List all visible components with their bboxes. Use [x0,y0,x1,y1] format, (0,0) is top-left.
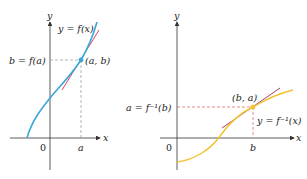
left-y-value-label: b = f(a) [9,55,46,66]
right-graph: x y 0 y = f⁻¹(x) a = f⁻¹(b) (b, a) b [126,10,302,170]
left-x-tick-label: a [78,142,84,153]
diagram-canvas: x y 0 y = f(x) b = f(a) (a, b) a x y 0 y… [0,0,307,179]
left-point-ab [79,58,84,63]
right-y-axis-label: y [173,10,180,21]
right-y-value-label: a = f⁻¹(b) [126,102,172,113]
left-graph: x y 0 y = f(x) b = f(a) (a, b) a [9,10,110,170]
right-point-label: (b, a) [232,92,257,103]
left-x-axis-label: x [103,132,109,143]
left-curve-label: y = f(x) [57,23,94,34]
right-x-tick-label: b [250,142,256,153]
right-curve-label: y = f⁻¹(x) [256,115,302,126]
left-y-axis-label: y [46,10,53,21]
left-curve-f [27,22,97,138]
left-origin-label: 0 [40,142,46,153]
right-x-axis-label: x [296,132,302,143]
right-origin-label: 0 [166,142,172,153]
left-point-label: (a, b) [85,55,110,66]
right-point-ba [251,105,256,110]
